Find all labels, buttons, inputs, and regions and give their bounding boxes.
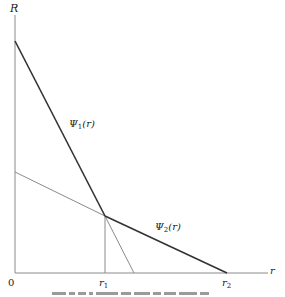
x-axis-label: r bbox=[270, 266, 275, 276]
origin-label: 0 bbox=[8, 278, 14, 288]
psi1-extension-line bbox=[105, 216, 134, 273]
psi2-label: Ψ2(r) bbox=[155, 222, 181, 234]
diagram-canvas bbox=[0, 0, 285, 297]
psi1-label: Ψ1(r) bbox=[69, 119, 95, 131]
psi2-extension-line bbox=[15, 172, 105, 216]
kinked-line-diagram: R r 0 r1 r2 Ψ1(r) Ψ2(r) bbox=[0, 0, 285, 297]
figure-caption-cropped bbox=[52, 292, 228, 297]
r1-tick-label: r1 bbox=[99, 278, 108, 290]
y-axis-label: R bbox=[10, 3, 18, 14]
r2-tick-label: r2 bbox=[222, 278, 231, 290]
